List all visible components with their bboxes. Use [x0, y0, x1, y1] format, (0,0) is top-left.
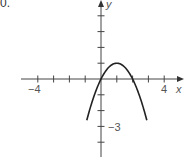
- x-axis-label: x: [176, 83, 182, 95]
- x-tick-label-neg4: −4: [28, 83, 41, 95]
- y-axis-label: y: [106, 0, 112, 10]
- y-tick-label-neg3: −3: [108, 121, 121, 133]
- graph: [0, 0, 186, 157]
- y-axis-arrow-icon: [98, 0, 104, 7]
- x-axis-arrow-icon: [177, 76, 184, 82]
- axes: [21, 0, 184, 157]
- x-tick-label-4: 4: [161, 83, 167, 95]
- parabola-curve: [87, 63, 147, 120]
